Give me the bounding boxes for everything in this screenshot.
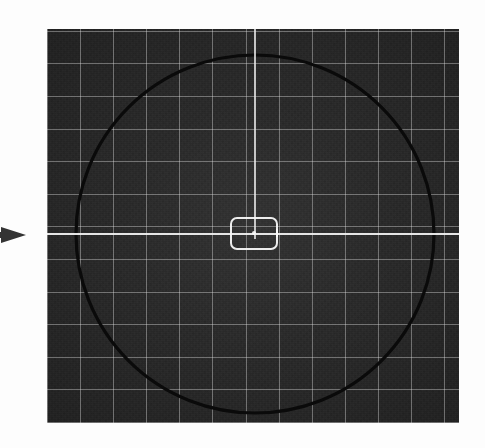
composition-grid-overlay	[47, 29, 459, 423]
arrow-right-icon	[0, 223, 28, 247]
focus-center-dot-icon	[252, 231, 256, 235]
focus-tick-right-icon	[276, 229, 278, 237]
crosshair-vertical-line	[254, 29, 256, 239]
crosshair-horizontal-line	[47, 233, 459, 235]
vignette-overlay	[47, 29, 459, 423]
circle-outline-icon	[47, 29, 459, 423]
focus-rectangle[interactable]	[230, 217, 278, 250]
sensor-noise-texture	[47, 29, 459, 423]
camera-viewfinder-panel[interactable]	[47, 29, 459, 423]
screenshot-stage	[0, 0, 485, 448]
